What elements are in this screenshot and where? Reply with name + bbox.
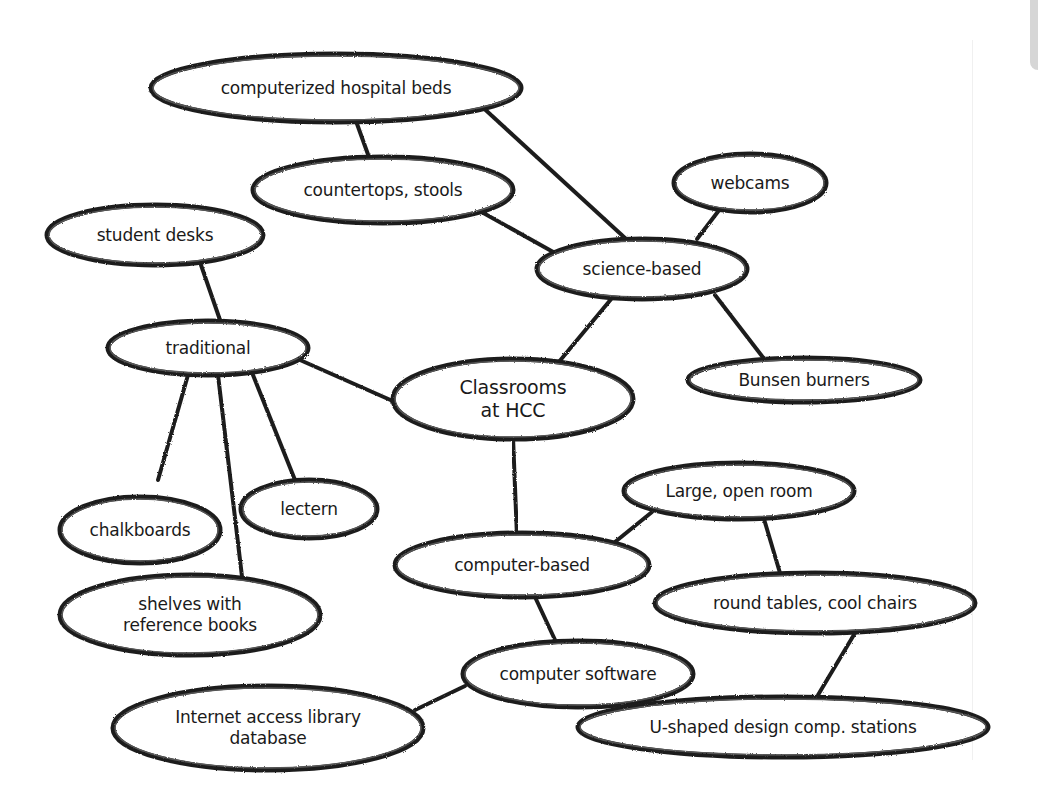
node-label-webcams: webcams <box>711 173 790 194</box>
edge-large_room-computer_based <box>615 512 652 542</box>
edge-software-internet <box>415 686 465 710</box>
node-label-u-shaped: U-shaped design comp. stations <box>649 717 916 738</box>
edge-countertops-science_based <box>478 210 555 253</box>
edge-computer_based-software <box>535 597 556 642</box>
node-label-hospital-beds: computerized hospital beds <box>221 78 452 99</box>
node-label-countertops: countertops, stools <box>303 180 462 201</box>
node-label-large-room: Large, open room <box>665 481 812 502</box>
edge-student_desks-traditional <box>201 265 220 320</box>
edge-science_based-classrooms <box>558 298 612 363</box>
edge-hospital_beds-science_based <box>478 103 625 238</box>
edge-traditional-classrooms <box>300 360 395 402</box>
node-label-classrooms: Classroomsat HCC <box>459 376 566 422</box>
node-label-lectern: lectern <box>280 499 338 520</box>
edge-classrooms-computer_based <box>513 437 517 537</box>
edge-round_tables-u_shaped <box>818 633 855 695</box>
node-label-software: computer software <box>500 664 657 685</box>
node-label-traditional: traditional <box>165 338 250 359</box>
node-label-round-tables: round tables, cool chairs <box>713 593 917 614</box>
node-label-science-based: science-based <box>583 259 702 280</box>
edge-large_room-round_tables <box>764 519 780 573</box>
edge-science_based-bunsen <box>715 295 765 360</box>
edge-traditional-shelves <box>218 375 243 585</box>
node-label-bunsen: Bunsen burners <box>738 370 869 391</box>
node-label-computer-based: computer-based <box>454 555 590 576</box>
node-label-internet: Internet access librarydatabase <box>175 707 361 749</box>
node-label-shelves: shelves withreference books <box>123 594 257 636</box>
node-label-student-desks: student desks <box>97 225 214 246</box>
node-label-chalkboards: chalkboards <box>90 520 191 541</box>
edge-traditional-chalkboards <box>158 375 188 480</box>
edge-traditional-lectern <box>253 375 297 485</box>
